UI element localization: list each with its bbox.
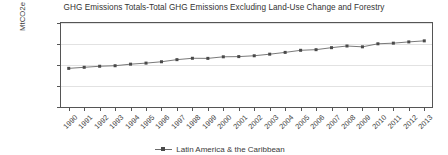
x-tick-mark (378, 107, 379, 111)
legend-label: Latin America & the Caribbean (176, 145, 285, 154)
x-tick-mark (223, 107, 224, 111)
data-point-marker (284, 51, 287, 54)
data-point-marker (191, 57, 194, 60)
data-point-marker (330, 46, 333, 49)
series-line (69, 41, 425, 69)
data-point-marker (268, 53, 271, 56)
x-tick-mark (316, 107, 317, 111)
x-tick-mark (254, 107, 255, 111)
data-point-marker (299, 49, 302, 52)
x-tick-mark (393, 107, 394, 111)
x-tick-mark (100, 107, 101, 111)
data-point-marker (98, 65, 101, 68)
legend-item-latin-america-and-the-caribbean[interactable]: Latin America & the Caribbean (155, 145, 285, 154)
x-tick-mark (424, 107, 425, 111)
x-tick-mark (131, 107, 132, 111)
x-tick-mark (84, 107, 85, 111)
x-tick-mark (347, 107, 348, 111)
data-point-marker (237, 55, 240, 58)
chart-title: GHG Emissions Totals-Total GHG Emissions… (0, 3, 448, 12)
data-point-marker (222, 55, 225, 58)
data-point-marker (315, 48, 318, 51)
y-axis-label: MtCO2e (18, 2, 27, 31)
data-point-marker (83, 66, 86, 69)
data-point-marker (392, 42, 395, 45)
x-tick-mark (115, 107, 116, 111)
data-point-marker (160, 60, 163, 63)
x-tick-mark (301, 107, 302, 111)
data-point-marker (361, 45, 364, 48)
chart-legend: Latin America & the Caribbean (0, 145, 448, 154)
data-point-marker (345, 45, 348, 48)
chart-container: GHG Emissions Totals-Total GHG Emissions… (0, 0, 448, 155)
data-point-marker (423, 39, 426, 42)
data-point-marker (407, 40, 410, 43)
data-point-marker (145, 62, 148, 65)
plot-area: MtCO2e 01,0002,0003,0004,000 19901991199… (60, 22, 433, 108)
data-point-marker (206, 57, 209, 60)
data-point-marker (67, 67, 70, 70)
x-tick-mark (161, 107, 162, 111)
data-point-marker (253, 54, 256, 57)
data-point-marker (129, 63, 132, 66)
x-tick-mark (270, 107, 271, 111)
data-point-marker (114, 64, 117, 67)
x-tick-mark (208, 107, 209, 111)
x-tick-mark (362, 107, 363, 111)
x-tick-mark (239, 107, 240, 111)
data-point-marker (376, 42, 379, 45)
x-tick-mark (285, 107, 286, 111)
data-series-latin-america-and-the-caribbean (61, 23, 432, 107)
x-tick-mark (409, 107, 410, 111)
x-tick-mark (177, 107, 178, 111)
data-point-marker (175, 58, 178, 61)
x-tick-mark (69, 107, 70, 111)
legend-line-marker-icon (155, 146, 172, 154)
y-tick-mark (57, 107, 61, 108)
x-tick-mark (332, 107, 333, 111)
x-tick-mark (146, 107, 147, 111)
x-tick-mark (192, 107, 193, 111)
